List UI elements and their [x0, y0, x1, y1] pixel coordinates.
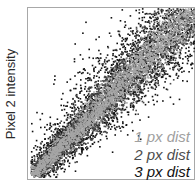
legend-item-3px: 3 px dist — [134, 163, 190, 181]
legend-item-1px: 1 px dist — [134, 128, 190, 146]
legend-item-2px: 2 px dist — [134, 146, 190, 164]
legend: 1 px dist 2 px dist 3 px dist — [134, 128, 190, 181]
y-axis-label: Pixel 2 intensity — [3, 34, 18, 154]
